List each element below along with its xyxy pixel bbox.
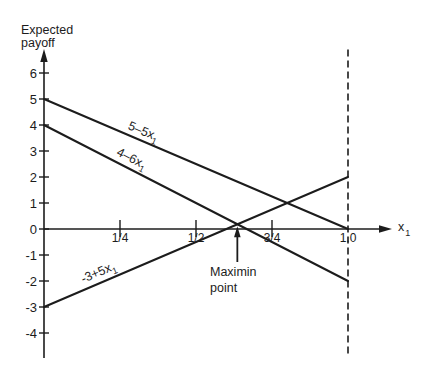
- y-tick-label: 2: [30, 170, 37, 185]
- x-tick-label: 1/4: [112, 231, 129, 245]
- series-label-5-minus-5x1: 5–5x1: [125, 119, 161, 147]
- x-tick-label: 1.0: [340, 231, 357, 245]
- x-axis-title-main: x: [398, 220, 405, 234]
- maximin-annotation: Maximin point: [210, 226, 257, 295]
- x-axis-title: x1: [398, 220, 410, 238]
- series-line-0: [44, 99, 348, 229]
- series-label-subscript: 1: [111, 265, 120, 276]
- x-ticks: 1/41/23/41.0: [112, 220, 357, 245]
- x-axis-title-subscript: 1: [405, 228, 410, 238]
- y-tick-label: 3: [30, 144, 37, 159]
- y-tick-label: 6: [30, 66, 37, 81]
- series-line-1: [44, 125, 348, 281]
- y-axis-title-line-2: payoff: [21, 36, 55, 50]
- y-tick-label: -1: [25, 248, 37, 263]
- y-tick-label: 5: [30, 92, 37, 107]
- maximin-label-line-1: Maximin: [210, 265, 257, 279]
- y-axis-arrow-icon: [40, 49, 47, 62]
- x-axis-arrow-icon: [379, 225, 392, 232]
- y-axis-title-line-1: Expected: [21, 23, 73, 37]
- y-tick-label: 4: [30, 118, 37, 133]
- y-tick-label: 1: [30, 196, 37, 211]
- maximin-arrow-icon: [234, 226, 241, 237]
- maximin-label-line-2: point: [210, 281, 238, 295]
- y-ticks: 6543210-1-2-3-4: [25, 66, 49, 341]
- y-tick-label: -3: [25, 300, 37, 315]
- payoff-chart: Expected payoff x1 6543210-1-2-3-4 1/41/…: [0, 0, 427, 381]
- series-label-main: -3+5x: [79, 260, 114, 286]
- y-tick-label: -4: [25, 326, 37, 341]
- y-tick-label: -2: [25, 274, 37, 289]
- y-tick-label: 0: [30, 222, 37, 237]
- series-line-2: [44, 177, 348, 307]
